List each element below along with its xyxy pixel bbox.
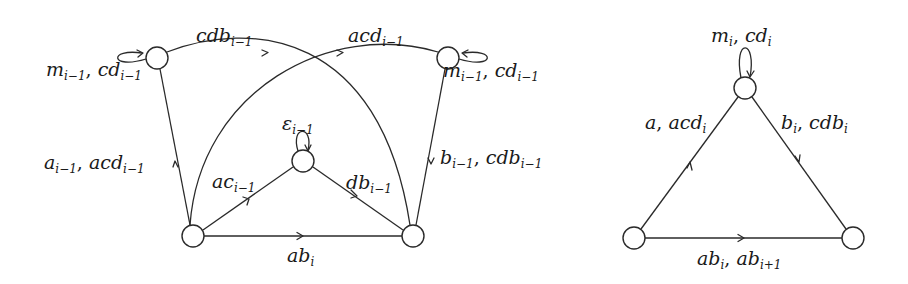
state-node-bottom-right — [402, 225, 424, 247]
label-loop-top-right: mi−1, cdi−1 — [443, 61, 539, 83]
edge-left-vertical — [160, 69, 190, 225]
label-right-vertical: bi−1, cdbi−1 — [440, 148, 542, 170]
arrow-icon — [687, 162, 692, 170]
label-loop-top-left: mi−1, cdi−1 — [46, 60, 142, 82]
label-cdb-arc: cdbi−1 — [196, 26, 253, 48]
arrow-icon — [337, 50, 343, 56]
label-bottom: abi — [287, 246, 314, 268]
label-from-center: dbi−1 — [346, 173, 392, 195]
label-loop-top: mi, cdi — [711, 26, 772, 48]
arrow-icon — [462, 50, 468, 57]
label-to-center: aci−1 — [212, 172, 256, 194]
right-diagram — [623, 48, 864, 249]
label-left-vertical: ai−1, acdi−1 — [44, 153, 145, 175]
label-edge-right: bi, cdbi — [781, 113, 848, 135]
state-diagram-canvas — [0, 0, 908, 284]
arrow-icon — [262, 50, 268, 56]
state-node-top-left — [146, 47, 168, 69]
state-node-top — [734, 77, 756, 99]
label-edge-bottom: abi, abi+1 — [697, 249, 781, 271]
arrow-icon — [428, 158, 434, 164]
state-node-bottom-left — [182, 225, 204, 247]
state-node-center — [292, 150, 314, 172]
state-node-bottom-right — [842, 227, 864, 249]
arrow-icon — [137, 50, 143, 57]
label-loop-center: εi−1 — [282, 114, 314, 136]
label-acd-arc: acdi−1 — [348, 26, 404, 48]
loop-top — [739, 48, 751, 78]
label-edge-left: a, acdi — [645, 113, 706, 135]
state-node-bottom-left — [623, 227, 645, 249]
edge-acd-arc — [190, 44, 438, 225]
left-diagram — [118, 38, 488, 247]
